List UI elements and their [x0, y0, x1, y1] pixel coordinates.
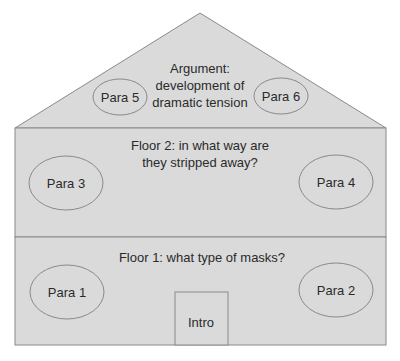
floor-2-title-line-2: they stripped away? — [142, 155, 258, 170]
floor-2-title-line-1: Floor 2: in what way are — [131, 138, 269, 153]
roof-title-line-1: Argument: — [170, 61, 230, 76]
floor-1-title: Floor 1: what type of masks? — [119, 250, 285, 265]
roof-title-line-2: development of — [156, 78, 245, 93]
para-4-label: Para 4 — [317, 175, 355, 190]
intro-label: Intro — [188, 315, 214, 330]
para-5-label: Para 5 — [101, 90, 139, 105]
door-intro: Intro — [175, 292, 228, 345]
essay-house-diagram: Argument: development of dramatic tensio… — [0, 0, 400, 361]
para-6-label: Para 6 — [262, 89, 300, 104]
para-1-label: Para 1 — [48, 285, 86, 300]
roof-title-line-3: dramatic tension — [152, 95, 247, 110]
para-2-label: Para 2 — [317, 283, 355, 298]
para-3-label: Para 3 — [47, 176, 85, 191]
